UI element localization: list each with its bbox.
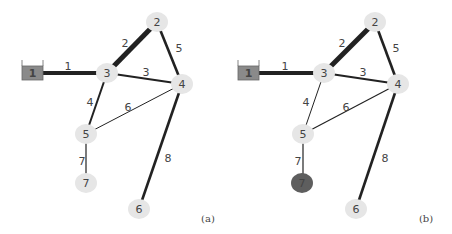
edge-label-4: 4 [303, 96, 310, 109]
node-label-2: 2 [154, 16, 161, 29]
edge-label-3: 3 [143, 66, 150, 79]
edge-2 [107, 22, 157, 73]
node-3: 3 [313, 63, 335, 83]
node-6: 6 [345, 199, 367, 219]
panel-b: 123456781234567(b) [238, 12, 433, 224]
node-label-7: 7 [83, 177, 90, 190]
edge-label-5: 5 [176, 42, 183, 55]
node-4: 4 [171, 74, 193, 94]
tank-node-1: 1 [22, 60, 43, 80]
node-7: 7 [75, 173, 97, 193]
edge-2 [324, 22, 375, 73]
node-label-6: 6 [136, 203, 143, 216]
node-2: 2 [146, 12, 168, 32]
node-7: 7 [291, 173, 313, 193]
edge-label-3: 3 [360, 66, 367, 79]
panel-label-b: (b) [419, 213, 433, 224]
node-label-7: 7 [299, 177, 306, 190]
edge-label-2: 2 [339, 37, 346, 50]
edge-label-1: 1 [65, 60, 72, 73]
panel-a: 123456781234567(a) [22, 12, 215, 224]
edge-label-4: 4 [87, 96, 94, 109]
network-diagram: 123456781234567(a)123456781234567(b) [0, 0, 452, 234]
edge-label-8: 8 [382, 152, 389, 165]
node-4: 4 [387, 74, 409, 94]
tank-node-1: 1 [238, 60, 259, 80]
edge-label-1: 1 [282, 60, 289, 73]
node-6: 6 [128, 199, 150, 219]
node-label-4: 4 [395, 78, 402, 91]
node-3: 3 [96, 63, 118, 83]
node-label-6: 6 [353, 203, 360, 216]
edge-label-6: 6 [343, 101, 350, 114]
tank-label: 1 [245, 67, 253, 80]
edge-label-8: 8 [165, 152, 172, 165]
node-label-3: 3 [104, 67, 111, 80]
edge-label-5: 5 [393, 42, 400, 55]
node-5: 5 [75, 124, 97, 144]
edge-label-7: 7 [79, 155, 86, 168]
edge-label-2: 2 [122, 37, 129, 50]
panel-label-a: (a) [201, 213, 215, 224]
node-label-2: 2 [372, 16, 379, 29]
edge-label-6: 6 [125, 101, 132, 114]
node-label-3: 3 [321, 67, 328, 80]
node-5: 5 [292, 124, 314, 144]
node-label-5: 5 [83, 128, 90, 141]
edge-label-7: 7 [295, 155, 302, 168]
tank-label: 1 [29, 67, 37, 80]
node-label-5: 5 [300, 128, 307, 141]
node-2: 2 [364, 12, 386, 32]
node-label-4: 4 [179, 78, 186, 91]
